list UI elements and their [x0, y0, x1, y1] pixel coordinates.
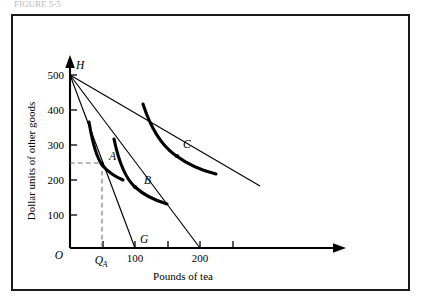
y-label-100: 100: [48, 209, 65, 221]
budget-line-flattest: [70, 75, 260, 186]
point-label-b: B: [144, 174, 151, 186]
budget-line-middle: [70, 75, 200, 248]
guide-lines-group: [70, 163, 102, 248]
y-tick-group: [70, 75, 77, 215]
point-label-g: G: [140, 233, 149, 245]
point-dot-b: [133, 185, 137, 189]
x-axis-title: Pounds of tea: [153, 270, 213, 282]
figure-caption-fragment: FIGURE 5-5: [14, 0, 214, 9]
x-axis-arrowhead: [333, 243, 346, 253]
point-dot-a: [100, 162, 104, 166]
y-axis-title: Dollar units of other goods: [25, 102, 37, 221]
y-axis-arrowhead: [65, 55, 75, 68]
figure-frame: 500 400 300 200 100 100 200 O Q A H A B: [11, 14, 410, 291]
y-label-400: 400: [48, 104, 65, 116]
point-label-h: H: [75, 59, 85, 71]
y-label-300: 300: [48, 139, 65, 151]
qa-label-subscript: A: [102, 260, 108, 269]
x-label-200: 200: [192, 252, 209, 264]
origin-label: O: [55, 249, 64, 261]
chart-canvas: 500 400 300 200 100 100 200 O Q A H A B: [13, 16, 412, 293]
point-dot-c: [175, 154, 179, 158]
x-label-100: 100: [127, 252, 144, 264]
y-label-200: 200: [48, 174, 65, 186]
figure-root: FIGURE 5-5: [0, 0, 422, 306]
y-label-500: 500: [48, 69, 65, 81]
y-axis-labels: 500 400 300 200 100: [48, 69, 65, 221]
point-label-a: A: [108, 150, 117, 162]
qa-label-group: Q A: [95, 254, 108, 269]
point-label-c: C: [183, 138, 191, 150]
x-axis-labels: 100 200: [127, 252, 209, 264]
